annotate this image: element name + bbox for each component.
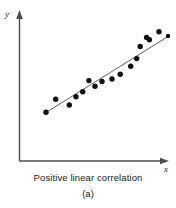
y-axis-label: y <box>5 10 9 19</box>
scatter-point <box>166 34 170 38</box>
scatter-point <box>128 64 133 69</box>
figure-caption: Positive linear correlation <box>0 172 176 184</box>
figure-index-label: (a) <box>0 188 176 200</box>
scatter-point <box>134 56 139 61</box>
scatter-point <box>67 102 72 107</box>
scatter-point <box>73 94 78 99</box>
scatter-point <box>53 97 58 102</box>
scatter-point <box>43 110 48 115</box>
scatter-point <box>144 35 149 40</box>
scatter-point <box>99 79 104 84</box>
scatter-point <box>156 29 161 34</box>
y-axis-arrowhead <box>16 10 23 19</box>
scatter-point <box>109 76 114 81</box>
scatter-point <box>80 89 85 94</box>
correlation-figure: y x Positive linear correlation (a) <box>0 0 176 208</box>
scatter-point <box>86 78 91 83</box>
scatter-point <box>92 84 97 89</box>
scatter-point <box>118 72 123 77</box>
scatter-point <box>138 44 143 49</box>
trend-line <box>46 37 168 113</box>
